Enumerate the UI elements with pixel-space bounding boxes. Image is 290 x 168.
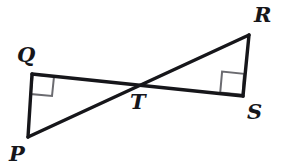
segment-PR [28,35,249,137]
right-angle-Q [31,74,54,96]
segment-RS [243,35,249,96]
vertex-label-P: P [9,143,25,164]
vertex-label-Q: Q [17,44,35,65]
segment-QP [28,74,32,137]
vertex-label-T: T [130,91,146,112]
right-angle-S [220,72,244,95]
figure-canvas [0,0,290,168]
vertex-label-R: R [254,4,271,25]
geometry-figure: Q P R S T [0,0,290,168]
vertex-label-S: S [247,101,262,122]
